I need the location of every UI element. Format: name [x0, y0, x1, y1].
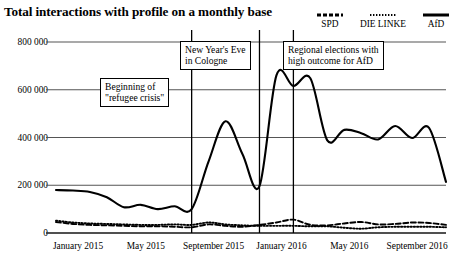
legend-label: SPD	[321, 20, 338, 29]
x-tick-label-2: September 2015	[183, 241, 244, 251]
dashed-line-icon	[316, 11, 344, 19]
legend-item-spd[interactable]: SPD	[316, 11, 344, 29]
dotted-line-icon	[369, 11, 397, 19]
chart-page: Total interactions with profile on a mon…	[0, 0, 452, 258]
chart-header: Total interactions with profile on a mon…	[0, 0, 452, 30]
x-tick-label-0: January 2015	[53, 241, 103, 251]
x-axis-labels: January 2015May 2015September 2015Januar…	[0, 240, 452, 258]
x-tick-label-4: May 2016	[330, 241, 368, 251]
x-tick-label-1: May 2015	[127, 241, 165, 251]
x-tick-label-3: January 2016	[256, 241, 306, 251]
legend-label: DIE LINKE	[360, 20, 406, 29]
page-title: Total interactions with profile on a mon…	[4, 4, 272, 20]
chart-legend: SPDDIE LINKEAfD	[316, 3, 450, 29]
legend-label: AfD	[428, 20, 445, 29]
annotation-regional-elections: Regional elections with high outcome for…	[283, 41, 384, 70]
x-tick-label-5: September 2016	[387, 241, 448, 251]
legend-item-die-linke[interactable]: DIE LINKE	[360, 11, 406, 29]
annotation-refugee-crisis: Beginning of "refugee crisis"	[100, 78, 169, 107]
annotation-new-years-eve: New Year's Eve in Cologne	[180, 41, 251, 70]
legend-item-afd[interactable]: AfD	[422, 11, 450, 29]
solid-line-icon	[422, 11, 450, 19]
